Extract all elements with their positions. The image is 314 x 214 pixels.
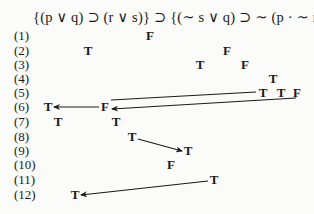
arrow-line (112, 98, 296, 109)
arrow-line (111, 92, 256, 100)
arrow-line (138, 139, 182, 151)
arrow-line (81, 181, 208, 195)
arrows (0, 0, 314, 214)
